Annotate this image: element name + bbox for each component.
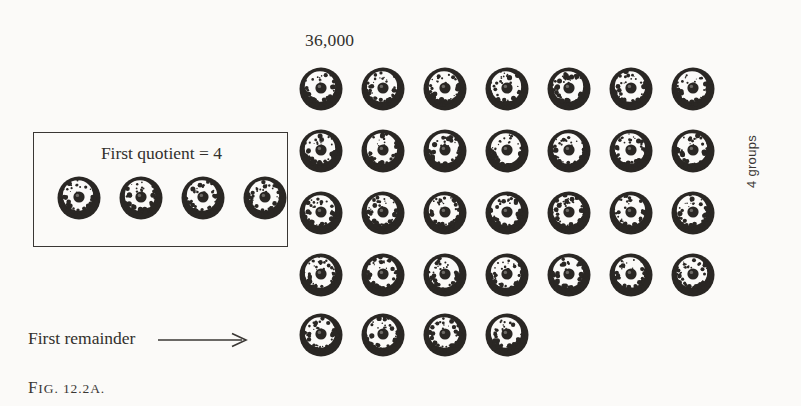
bead-icon [360, 66, 406, 112]
bead-icon [298, 66, 344, 112]
bead-icon [422, 312, 468, 358]
bead-icon [360, 312, 406, 358]
first-quotient-box: First quotient = 4 [33, 132, 288, 247]
main-bead-grid [298, 66, 718, 304]
bead-icon [422, 66, 468, 112]
bead-icon [546, 252, 592, 298]
bead-icon [180, 175, 226, 221]
first-quotient-label: First quotient = 4 [34, 143, 289, 164]
bead-icon [608, 128, 654, 174]
bead-icon [546, 128, 592, 174]
bead-icon [298, 190, 344, 236]
bead-icon [422, 190, 468, 236]
bead-icon [360, 252, 406, 298]
bead-icon [546, 66, 592, 112]
figure-caption-initial: F [28, 378, 38, 397]
bead-icon [422, 128, 468, 174]
figure-caption-text: IG. 12.2A. [38, 381, 105, 396]
quotient-bead-row [56, 175, 288, 225]
bead-icon [484, 252, 530, 298]
bead-icon [608, 190, 654, 236]
bead-icon [298, 128, 344, 174]
figure-page: 36,000 First quotient = 4 First remainde… [0, 0, 801, 406]
groups-label: 4 groups [744, 68, 764, 188]
bead-icon [242, 175, 288, 221]
bead-icon [484, 66, 530, 112]
total-label: 36,000 [305, 30, 354, 51]
bead-icon [360, 128, 406, 174]
bead-icon [670, 252, 716, 298]
bead-icon [608, 66, 654, 112]
remainder-bead-row [298, 312, 538, 362]
bead-icon [360, 190, 406, 236]
bead-icon [118, 175, 164, 221]
bead-icon [484, 128, 530, 174]
bead-icon [670, 190, 716, 236]
bead-icon [484, 190, 530, 236]
figure-caption: FIG. 12.2A. [28, 378, 105, 398]
bead-icon [298, 252, 344, 298]
bead-icon [546, 190, 592, 236]
bead-icon [484, 312, 530, 358]
bead-icon [422, 252, 468, 298]
bead-icon [56, 175, 102, 221]
bead-icon [298, 312, 344, 358]
first-remainder-label: First remainder [28, 328, 135, 349]
bead-icon [670, 66, 716, 112]
long-right-arrow-icon [156, 330, 252, 350]
bead-icon [608, 252, 654, 298]
bead-icon [670, 128, 716, 174]
